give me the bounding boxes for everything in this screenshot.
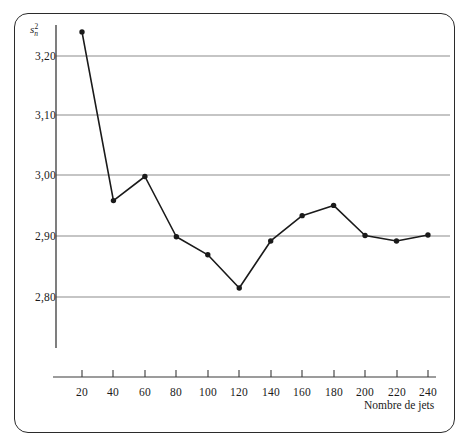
chart-figure: sn2 Nombre de jets 3,20 3,10 3,00 2,90 2…	[0, 0, 471, 448]
x-axis-ticks	[82, 370, 428, 377]
data-point-40	[111, 198, 116, 203]
data-line	[82, 32, 428, 288]
plot-area	[0, 0, 471, 448]
data-point-140	[268, 238, 273, 243]
data-point-60	[142, 174, 147, 179]
gridlines	[56, 56, 450, 297]
data-markers	[79, 29, 430, 290]
data-point-240	[425, 232, 430, 237]
data-point-160	[299, 213, 304, 218]
data-point-20	[79, 29, 84, 34]
data-point-100	[205, 252, 210, 257]
data-point-80	[174, 234, 179, 239]
data-point-180	[331, 203, 336, 208]
data-point-120	[237, 285, 242, 290]
data-point-200	[362, 233, 367, 238]
data-point-220	[394, 238, 399, 243]
